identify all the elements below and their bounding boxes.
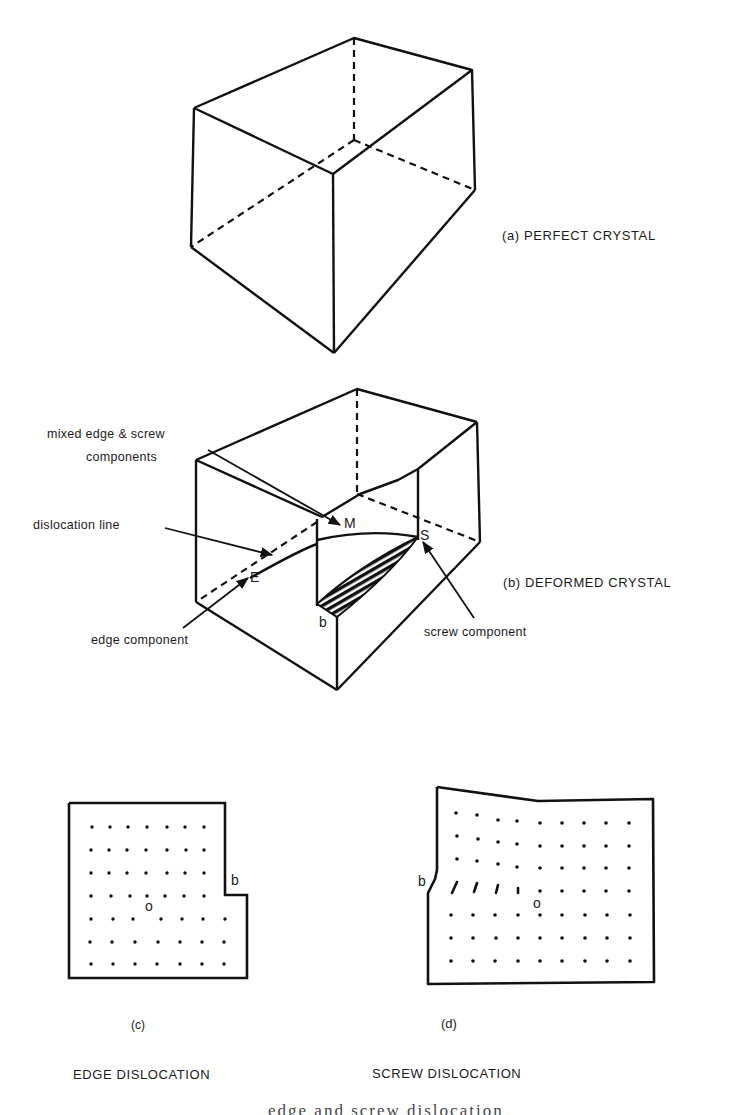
screw-dislocation-lattice	[449, 811, 632, 963]
dislocation-figure	[0, 0, 739, 1115]
perfect-crystal-box	[191, 38, 475, 353]
panel-letter-d: (d)	[441, 1016, 457, 1031]
annotation-mixed-line2: components	[86, 450, 157, 464]
symbol-e: E	[250, 569, 259, 585]
screw-dislocation-outline	[428, 787, 654, 984]
symbol-b-screw: b	[418, 873, 426, 889]
deformed-crystal-box	[196, 389, 480, 690]
annotation-dislocation-line: dislocation line	[33, 518, 120, 532]
caption-screw-dislocation: SCREW DISLOCATION	[372, 1066, 521, 1081]
symbol-b-burgers: b	[319, 614, 327, 630]
slip-step-hatch	[317, 537, 418, 617]
caption-deformed-crystal: (b) DEFORMED CRYSTAL	[503, 575, 671, 590]
symbol-s: S	[420, 527, 429, 543]
symbol-m: M	[344, 515, 356, 531]
edge-dislocation-outline	[69, 803, 247, 978]
symbol-b-edge: b	[231, 872, 239, 888]
symbol-o-edge: o	[145, 898, 153, 914]
caption-edge-dislocation: EDGE DISLOCATION	[73, 1067, 210, 1082]
annotation-mixed-line1: mixed edge & screw	[47, 427, 165, 441]
footer-partial-text: edge and screw dislocation	[268, 1101, 504, 1115]
edge-dislocation-lattice	[88, 825, 226, 965]
annotation-screw-component: screw component	[424, 625, 526, 639]
symbol-o-screw: o	[533, 895, 541, 911]
annotation-edge-component: edge component	[91, 633, 188, 647]
caption-perfect-crystal: (a) PERFECT CRYSTAL	[502, 228, 656, 243]
panel-letter-c: (c)	[131, 1018, 145, 1032]
